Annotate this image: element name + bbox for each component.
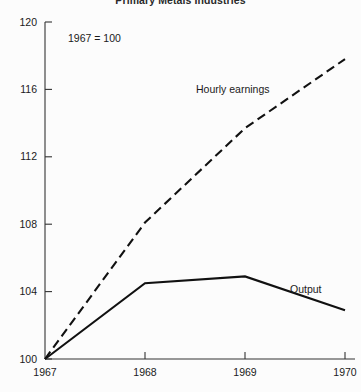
y-tick-label-120: 120 [19,16,37,28]
x-axis-ticks [145,352,345,359]
x-tick-label-1970: 1970 [333,366,357,378]
series-label-hourly-earnings: Hourly earnings [196,83,270,95]
y-axis-tick-labels: 100104108112116120 [19,16,37,365]
y-axis-ticks [45,22,52,359]
base-note-annotation: 1967 = 100 [68,32,121,44]
x-tick-label-1967: 1967 [33,366,57,378]
x-tick-label-1968: 1968 [133,366,157,378]
y-tick-label-112: 112 [20,150,37,162]
x-axis-tick-labels: 1967196819691970 [33,366,357,378]
x-tick-label-1969: 1969 [233,366,257,378]
series-label-output: Output [290,283,322,295]
series-line-hourly-earnings [45,59,345,359]
y-tick-label-108: 108 [19,218,37,230]
chart-container: Primary Metals Industries 10010410811211… [0,0,361,392]
y-tick-label-116: 116 [20,83,37,95]
chart-plot-area: 100104108112116120 1967196819691970 1967… [0,0,361,392]
y-tick-label-100: 100 [19,353,37,365]
y-tick-label-104: 104 [19,285,37,297]
